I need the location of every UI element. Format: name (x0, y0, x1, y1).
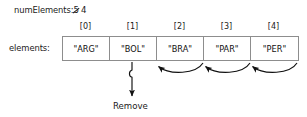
array-cell-4: "PER" (251, 37, 298, 60)
elements-label: elements: (9, 44, 50, 52)
num-elements-label: numElements: (14, 6, 73, 14)
array-removal-diagram: numElements: 5 4 [0] [1] [2] [3] [4] ele… (0, 0, 307, 117)
array-container: "ARG" "BOL" "BRA" "PAR" "PER" (62, 36, 299, 61)
array-index-4: [4] (250, 22, 297, 31)
shift-arrow-2-to-1 (159, 63, 204, 72)
num-elements-new-value: 4 (81, 6, 86, 15)
array-index-2: [2] (156, 22, 203, 31)
remove-arrow (129, 62, 132, 96)
array-index-0: [0] (62, 22, 109, 31)
num-elements-old-value: 5 (74, 6, 79, 15)
num-elements-old-value-text: 5 (74, 6, 79, 15)
array-index-1: [1] (109, 22, 156, 31)
array-cell-3: "PAR" (204, 37, 251, 60)
array-cell-1: "BOL" (110, 37, 157, 60)
array-cell-2: "BRA" (157, 37, 204, 60)
array-cell-0: "ARG" (63, 37, 110, 60)
shift-arrow-4-to-3 (253, 63, 298, 72)
array-index-3: [3] (203, 22, 250, 31)
remove-label: Remove (113, 102, 148, 111)
shift-arrow-3-to-2 (206, 63, 251, 72)
